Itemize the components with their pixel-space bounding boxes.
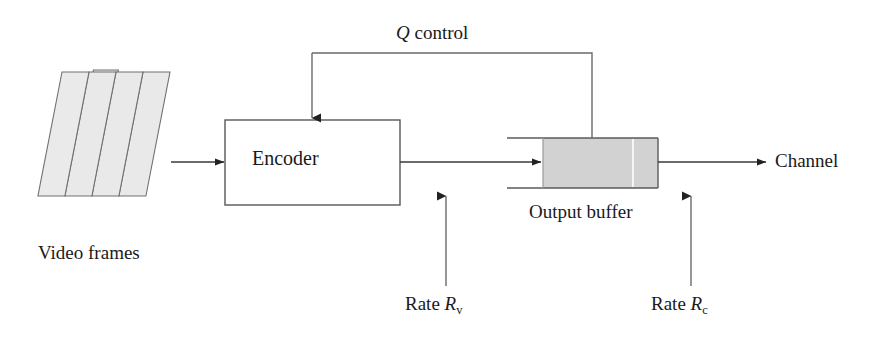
output-buffer [507,138,658,188]
rate-channel-subscript: c [702,303,708,317]
channel-label: Channel [775,151,838,170]
rate-video-prefix: Rate [405,293,445,314]
encoder-label: Encoder [252,148,319,168]
rate-channel-label: Rate Rc [651,294,708,316]
output-buffer-fill [543,138,658,188]
q-control-symbol: Q [396,22,410,43]
rate-video-symbol: R [445,293,457,314]
video-frames-label: Video frames [38,243,140,262]
rate-channel-symbol: R [691,293,703,314]
output-buffer-label: Output buffer [529,202,633,221]
q-control-label: Q control [396,23,468,42]
q-control-text: control [410,22,469,43]
rate-video-subscript: v [456,303,462,317]
rate-video-label: Rate Rv [405,294,462,316]
diagram-canvas: Encoder Video frames Output buffer Chann… [0,0,882,345]
rate-channel-prefix: Rate [651,293,691,314]
video-frames-stack [38,70,170,196]
